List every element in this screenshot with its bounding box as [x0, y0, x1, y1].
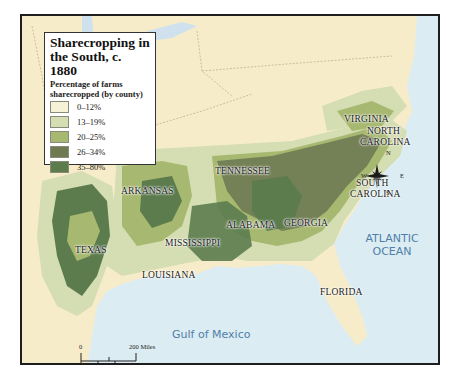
state-label-louisiana: LOUISIANA [142, 270, 196, 280]
state-label-tennessee: TENNESSEE [215, 166, 270, 176]
ocean-label-gulf: Gulf of Mexico [172, 328, 292, 341]
compass-w: W [361, 172, 367, 179]
legend-swatch [50, 101, 69, 113]
map-legend: Sharecropping in the South, c. 1880 Perc… [44, 32, 156, 165]
legend-swatch [50, 146, 69, 158]
legend-item: 35–80% [50, 160, 150, 174]
state-label-georgia: GEORGIA [284, 218, 328, 228]
state-label-virginia: VIRGINIA [344, 114, 389, 124]
legend-item: 20–25% [50, 130, 150, 144]
scale-miles: 200 Miles [129, 343, 155, 350]
legend-item: 26–34% [50, 145, 150, 159]
ocean-label-atlantic: ATLANTIC OCEAN [357, 232, 427, 258]
state-label-alabama: ALABAMA [226, 220, 275, 230]
scale-bar [81, 353, 136, 365]
state-label-florida: FLORIDA [320, 287, 363, 297]
state-label-north-carolina-2: CAROLINA [360, 137, 411, 147]
compass-s: S [386, 189, 390, 196]
legend-swatch [50, 161, 69, 173]
scale-zero-top: 0 [79, 343, 82, 350]
state-label-north-carolina-1: NORTH [367, 126, 400, 136]
compass-e: E [400, 172, 404, 179]
state-label-texas: TEXAS [75, 245, 107, 255]
state-label-south-carolina-1: SOUTH [356, 178, 389, 188]
state-label-south-carolina-2: CAROLINA [350, 189, 401, 199]
legend-swatch [50, 131, 69, 143]
state-label-arkansas: ARKANSAS [121, 186, 174, 196]
legend-item: 0–12% [50, 100, 150, 114]
legend-title-line2: the South, c. 1880 [50, 50, 150, 78]
legend-title-line1: Sharecropping in [50, 36, 150, 50]
legend-subtitle-line2: sharecropped (by county) [50, 90, 150, 100]
state-label-mississippi: MISSISSIPPI [165, 238, 220, 248]
compass-n: N [386, 149, 391, 156]
legend-swatch [50, 116, 69, 128]
legend-item: 13–19% [50, 115, 150, 129]
map-frame: Sharecropping in the South, c. 1880 Perc… [20, 14, 440, 365]
